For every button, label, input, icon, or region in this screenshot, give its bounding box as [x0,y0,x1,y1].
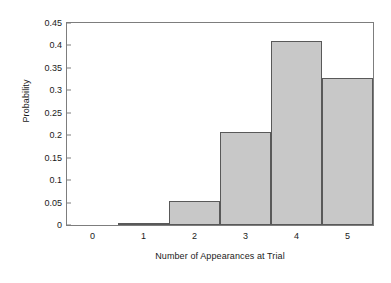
y-tick-label: 0.2 [49,131,67,140]
y-tick-label: 0.45 [44,19,67,28]
y-tick-mark [67,180,71,181]
x-axis-title: Number of Appearances at Trial [66,251,374,261]
x-tick-label: 3 [243,225,248,241]
y-tick-mark [67,135,71,136]
x-tick-label: 2 [192,225,197,241]
y-tick-label: 0.05 [44,198,67,207]
y-tick-label: 0.1 [49,176,67,185]
y-tick-label: 0.3 [49,86,67,95]
y-tick-label: 0 [57,221,67,230]
plot-area: 00.050.10.150.20.250.30.350.40.45 012345 [66,22,374,226]
y-tick-label: 0.15 [44,153,67,162]
bar-2 [169,201,220,225]
y-tick-mark [67,90,71,91]
chart-figure: Probability 00.050.10.150.20.250.30.350.… [0,0,391,283]
y-tick-mark [67,23,71,24]
x-tick-label: 5 [345,225,350,241]
bar-4 [271,41,322,225]
x-tick-label: 0 [90,225,95,241]
y-tick-label: 0.25 [44,108,67,117]
y-tick-mark [67,157,71,158]
x-tick-label: 4 [294,225,299,241]
y-tick-mark [67,112,71,113]
y-tick-label: 0.35 [44,63,67,72]
bar-3 [220,132,271,225]
y-tick-label: 0.4 [49,41,67,50]
y-tick-mark [67,202,71,203]
y-tick-mark [67,225,71,226]
y-tick-mark [67,67,71,68]
x-tick-label: 1 [141,225,146,241]
bar-5 [322,78,373,225]
y-tick-mark [67,45,71,46]
y-axis-title: Probability [21,31,31,171]
